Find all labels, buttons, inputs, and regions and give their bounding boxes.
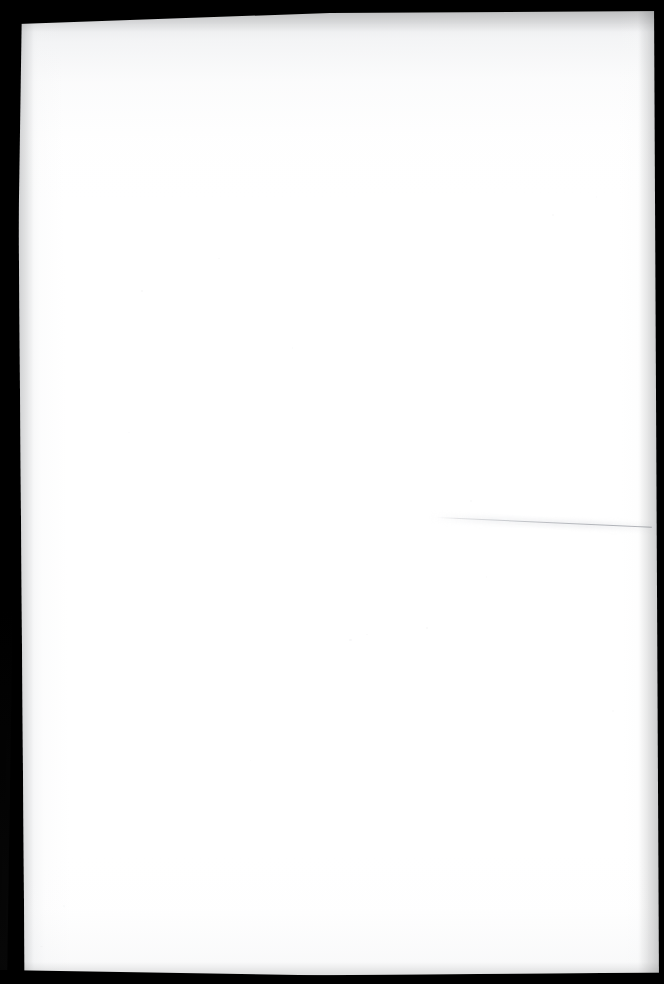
page-text-layer bbox=[17, 6, 664, 977]
scanned-page-viewport bbox=[0, 0, 664, 984]
paper-sheet bbox=[17, 6, 664, 977]
paper-top-shadow bbox=[17, 6, 658, 201]
paper-bottom-shadow bbox=[24, 852, 664, 977]
paper-left-shadow bbox=[17, 11, 71, 977]
paper-right-shadow bbox=[617, 6, 664, 972]
